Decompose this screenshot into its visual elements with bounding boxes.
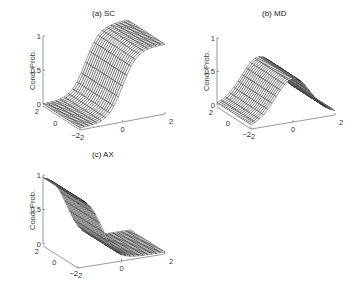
y-axis-line	[43, 246, 78, 268]
z-tick-label: 1	[211, 34, 215, 43]
panel-c-zlabel: Cond. Prob.	[28, 190, 37, 230]
x-tick-label: 2	[169, 117, 173, 126]
x-tick-label: 0	[291, 125, 295, 134]
panel-c-surface	[43, 178, 165, 257]
y-tick-label: 0	[53, 119, 57, 128]
panel-b-zlabel: Cond. Prob.	[202, 51, 211, 91]
panel-a-zlabel: Cond. Prob.	[28, 50, 37, 90]
panel-a-surface	[43, 20, 165, 128]
y-tick-label: 2	[35, 247, 39, 256]
x-tick-label: 0	[119, 264, 123, 273]
panel-b: (b) MD 00.51−202−202 Cond. Prob.	[202, 9, 343, 141]
y-tick-label: 2	[35, 107, 39, 116]
panel-a: (a) SC 00.51−202−202 Cond. Prob.	[28, 9, 173, 142]
y-tick-label: 0	[52, 258, 56, 267]
x-tick-label: 2	[339, 118, 343, 127]
x-tick-label: 2	[169, 257, 173, 266]
x-tick-label: −2	[247, 132, 256, 141]
panel-b-title: (b) MD	[262, 9, 287, 18]
y-tick-label: 0	[226, 119, 230, 128]
y-tick-label: 2	[209, 108, 213, 117]
panel-a-title: (a) SC	[92, 9, 115, 18]
x-tick-label: −2	[76, 133, 85, 142]
panel-b-surface	[217, 57, 335, 125]
figure-canvas: (a) SC 00.51−202−202 Cond. Prob. (b) MD …	[0, 0, 362, 292]
panel-c: (c) AX 00.51−202−202 Cond. Prob.	[28, 150, 173, 280]
z-tick-label: 1	[37, 171, 41, 180]
x-tick-label: −2	[74, 271, 83, 280]
x-tick-label: 0	[120, 125, 124, 134]
z-tick-label: 1	[37, 32, 41, 41]
panel-c-axes: 00.51−202−202	[31, 171, 174, 281]
panel-c-title: (c) AX	[92, 150, 114, 159]
